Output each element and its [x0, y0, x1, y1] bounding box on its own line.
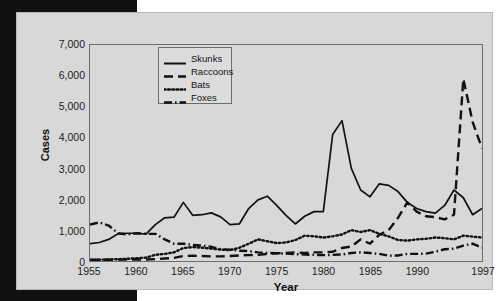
decorative-black-bleed-left	[0, 0, 16, 301]
y-tick-label: 4,000	[41, 131, 85, 143]
legend-swatch-bats-icon	[164, 80, 186, 89]
x-tick-label: 1975	[265, 265, 288, 277]
figure-root: Cases 01,0002,0003,0004,0005,0006,0007,0…	[0, 0, 503, 301]
legend-label: Bats	[191, 80, 210, 89]
chart-panel: Cases 01,0002,0003,0004,0005,0006,0007,0…	[16, 12, 493, 290]
y-tick-label: 6,000	[41, 69, 85, 81]
y-tick-label: 3,000	[41, 163, 85, 175]
legend-item-skunks[interactable]: Skunks	[164, 52, 227, 65]
x-tick-label: 1985	[359, 265, 382, 277]
plot-area	[89, 44, 483, 262]
x-tick-label: 1970	[218, 265, 241, 277]
chart-legend: SkunksRaccoonsBatsFoxes	[158, 47, 232, 104]
y-tick-label: 5,000	[41, 100, 85, 112]
legend-swatch-raccoons-icon	[164, 67, 186, 76]
series-line-raccoons	[90, 79, 482, 260]
x-axis-title: Year	[89, 281, 483, 293]
legend-swatch-skunks-icon	[164, 54, 186, 63]
y-tick-label: 1,000	[41, 225, 85, 237]
legend-label: Raccoons	[191, 67, 233, 76]
y-axis-tick-labels: 01,0002,0003,0004,0005,0006,0007,000	[37, 44, 85, 262]
legend-label: Skunks	[191, 54, 222, 63]
x-tick-label: 1955	[77, 265, 100, 277]
y-tick-label: 7,000	[41, 38, 85, 50]
plot-svg	[90, 45, 482, 261]
legend-item-foxes[interactable]: Foxes	[164, 91, 227, 104]
x-tick-label: 1965	[171, 265, 194, 277]
legend-item-raccoons[interactable]: Raccoons	[164, 65, 227, 78]
x-tick-label: 1960	[124, 265, 147, 277]
x-tick-label: 1990	[406, 265, 429, 277]
x-tick-label: 1997	[471, 265, 494, 277]
y-tick-label: 2,000	[41, 194, 85, 206]
series-line-skunks	[90, 121, 482, 244]
legend-label: Foxes	[191, 93, 217, 102]
x-axis-tick-labels: 195519601965197019751980198519901997	[89, 265, 483, 281]
legend-swatch-foxes-icon	[164, 93, 186, 102]
x-tick-label: 1980	[312, 265, 335, 277]
legend-item-bats[interactable]: Bats	[164, 78, 227, 91]
